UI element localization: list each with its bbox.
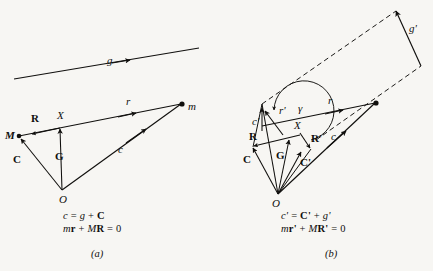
label-c-b: c bbox=[331, 131, 336, 142]
eq-b2-t3: M bbox=[309, 223, 318, 234]
label-m-a: m bbox=[188, 101, 196, 112]
eq-b1-term2: g' bbox=[323, 210, 331, 221]
eq-b2-t4: R' bbox=[318, 223, 329, 234]
eq-a2-plus: + bbox=[79, 223, 85, 234]
label-g-a: g bbox=[107, 55, 113, 66]
label-C-a: C bbox=[13, 154, 21, 165]
eq-a2-eq: = bbox=[107, 223, 113, 234]
eq-b2-t1: m bbox=[281, 223, 289, 234]
point-M-dot bbox=[17, 134, 22, 139]
eq-b2-eq: = bbox=[331, 223, 337, 234]
eq-a1-lhs: c bbox=[63, 210, 68, 221]
point-m-dot bbox=[179, 101, 184, 106]
label-O-a: O bbox=[59, 194, 67, 205]
equation-b-line1: c' = C' + g' bbox=[281, 211, 331, 222]
vector-R-arrow-b bbox=[254, 135, 300, 146]
vector-c-arrowhead-b bbox=[327, 131, 346, 148]
eq-a1-term2: C bbox=[97, 210, 105, 221]
label-R-a: R bbox=[31, 113, 39, 124]
label-X-b: X bbox=[294, 120, 301, 131]
caption-panel-b: (b) bbox=[325, 249, 337, 260]
label-c-a: c bbox=[118, 144, 123, 155]
label-C-b: C bbox=[243, 154, 251, 165]
label-X-a: X bbox=[57, 110, 64, 121]
eq-b2-rhs: 0 bbox=[340, 223, 345, 234]
label-R-b: R bbox=[249, 131, 257, 142]
label-g-prime-b: g' bbox=[409, 23, 417, 34]
panel-b-graphics bbox=[253, 11, 421, 194]
label-gamma-b: γ bbox=[298, 103, 302, 114]
eq-a2-t4: R bbox=[96, 223, 104, 234]
point-m-dot-b bbox=[373, 100, 378, 105]
vector-g-arrowhead bbox=[112, 60, 130, 63]
label-r-a: r bbox=[126, 96, 130, 107]
eq-b1-term1: C' bbox=[300, 210, 311, 221]
eq-a2-t2: r bbox=[71, 223, 76, 234]
eq-b1-plus: + bbox=[314, 210, 320, 221]
label-G-b: G bbox=[276, 150, 285, 161]
eq-b2-plus: + bbox=[300, 223, 306, 234]
caption-panel-a: (a) bbox=[91, 249, 103, 260]
vector-R-prime-arrow-b bbox=[300, 133, 310, 148]
vector-g-prime-arrow bbox=[396, 11, 421, 66]
label-c-prime-b: c' bbox=[252, 116, 259, 127]
label-C-prime-b: C' bbox=[300, 157, 311, 168]
label-M-a: M bbox=[5, 130, 15, 141]
equation-b-line2: mr' + MR' = 0 bbox=[281, 224, 346, 235]
label-O-b: O bbox=[272, 198, 280, 209]
eq-a1-plus: + bbox=[88, 210, 94, 221]
eq-b2-t2: r' bbox=[289, 223, 297, 234]
vector-c-line-b bbox=[278, 103, 375, 194]
eq-a2-t1: m bbox=[63, 223, 71, 234]
vector-r-arrowhead bbox=[118, 113, 136, 117]
panel-a-graphics bbox=[14, 48, 199, 190]
equation-a-line2: mr + MR = 0 bbox=[63, 224, 121, 235]
eq-a1-eq: = bbox=[71, 210, 77, 221]
equation-a-line1: c = g + C bbox=[63, 211, 105, 222]
label-r-b: r bbox=[328, 95, 332, 106]
eq-b1-eq: = bbox=[291, 210, 297, 221]
eq-a1-term1: g bbox=[80, 210, 85, 221]
eq-b1-lhs: c' bbox=[281, 210, 288, 221]
label-r-prime-b: r' bbox=[279, 105, 286, 116]
eq-a2-rhs: 0 bbox=[116, 223, 121, 234]
label-R-prime-b: R' bbox=[311, 133, 322, 144]
vector-R-arrow bbox=[32, 128, 60, 134]
label-G-a: G bbox=[55, 151, 64, 162]
vector-diagram-figure: g r c m M R X C G O c = g + C mr + MR = … bbox=[0, 0, 433, 271]
vector-c-arrowhead bbox=[126, 129, 146, 143]
vector-C-arrow bbox=[21, 139, 62, 190]
